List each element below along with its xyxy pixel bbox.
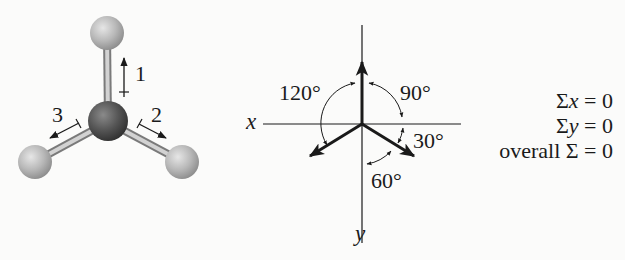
- outer-atom-right: [165, 145, 199, 179]
- outer-atom-left: [18, 145, 52, 179]
- vibration-label-3: 3: [52, 104, 63, 126]
- y-axis-label: y: [355, 222, 365, 245]
- arc-30: [398, 128, 403, 143]
- vector-down-right: [362, 124, 414, 156]
- equilibrium-equations: Σx = 0 Σy = 0 overall Σ = 0: [499, 88, 613, 163]
- angle-label-60: 60°: [371, 170, 402, 192]
- equation-sum-x: Σx = 0: [499, 88, 613, 113]
- angle-label-90: 90°: [400, 82, 431, 104]
- vibration-label-1: 1: [135, 63, 146, 85]
- vibration-label-2: 2: [151, 104, 162, 126]
- angle-label-30: 30°: [413, 130, 444, 152]
- arc-60: [367, 151, 391, 164]
- central-atom: [88, 101, 128, 141]
- arc-90: [369, 83, 402, 117]
- angle-label-120: 120°: [279, 82, 321, 104]
- symmetric-stretch-figure: 1 2 3 x y 120° 90° 30° 60° Σx = 0 Σy = 0…: [0, 0, 625, 260]
- equation-sum-y: Σy = 0: [499, 113, 613, 138]
- bonds: [36, 34, 181, 161]
- vector-down-left: [310, 124, 362, 156]
- displacement-arrow-1: [119, 58, 129, 97]
- outer-atom-top: [90, 16, 124, 50]
- equation-overall-sum: overall Σ = 0: [499, 138, 613, 163]
- x-axis-label: x: [246, 110, 256, 133]
- arc-120: [321, 83, 355, 145]
